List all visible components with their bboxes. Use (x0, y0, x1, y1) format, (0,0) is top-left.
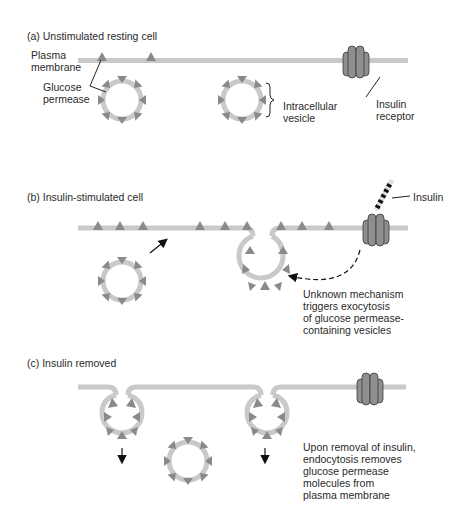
intracellular-vesicle-label: Intracellular vesicle (283, 100, 337, 124)
vesicle-icon (164, 437, 212, 485)
pointer-line (366, 77, 380, 97)
vesicle-icon (98, 257, 146, 305)
panel-c-title: (c) Insulin removed (27, 357, 116, 369)
insulin-receptor-icon (363, 214, 389, 246)
insulin-receptor-icon (357, 373, 383, 405)
exocytosis-note: Unknown mechanism triggers exocytosis of… (303, 288, 404, 336)
glucose-permease-label: Glucose permease (43, 81, 90, 105)
insulin-receptor-icon (343, 46, 369, 78)
dashed-arrow-icon (290, 250, 360, 280)
panel-a-title: (a) Unstimulated resting cell (27, 30, 157, 42)
bracket-icon (266, 83, 274, 117)
insulin-receptor-label: Insulin receptor (376, 98, 415, 122)
vesicle-icon (98, 76, 146, 124)
insulin-label: Insulin (413, 191, 443, 203)
endocytosis-note: Upon removal of insulin, endocytosis rem… (303, 441, 416, 501)
panel-a (78, 46, 408, 124)
vesicle-icon (218, 76, 266, 124)
panel-b-title: (b) Insulin-stimulated cell (27, 191, 143, 203)
arrow-icon (150, 240, 166, 253)
plasma-membrane-label: Plasma membrane (31, 49, 81, 73)
permease-icon (97, 52, 107, 61)
pointer-line (90, 60, 106, 92)
permease-icon (146, 52, 156, 61)
